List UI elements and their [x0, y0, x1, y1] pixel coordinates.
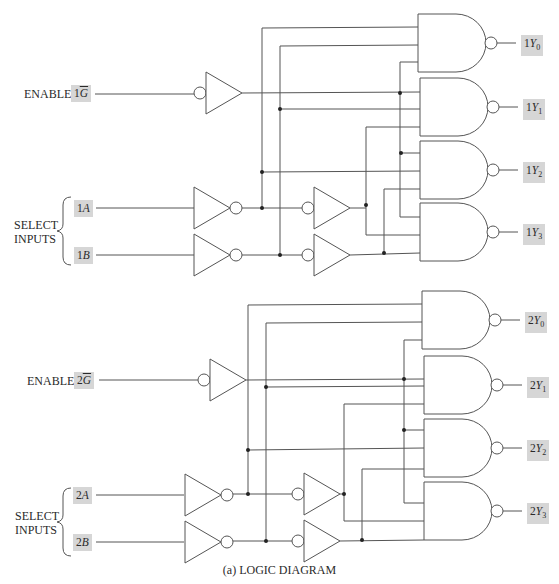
- output-1y3-pin: 1Y3: [523, 224, 545, 245]
- enable-2-inverter: [198, 359, 246, 401]
- input-2b-inverter: [185, 521, 233, 563]
- nand-1y0: [418, 14, 497, 72]
- output-1y0-pin: 1Y0: [521, 35, 543, 56]
- nand-1y2: [420, 141, 499, 199]
- select-inputs-2-label-line1: SELECT: [15, 509, 59, 524]
- input-1b-pin: 1B: [74, 247, 93, 264]
- output-2y2-pin: 2Y2: [527, 440, 549, 461]
- input-2a-pin: 2A: [73, 487, 92, 504]
- select-inputs-1-label-line1: SELECT: [14, 218, 58, 233]
- select-brace-1: [57, 197, 71, 265]
- nand-2y1: [424, 356, 503, 414]
- input-2a-buffer: [292, 473, 340, 515]
- input-1b-buffer: [302, 234, 350, 276]
- input-2b-pin: 2B: [73, 534, 92, 551]
- input-1b-inverter: [194, 234, 242, 276]
- enable-2-label: ENABLE: [27, 374, 74, 389]
- enable-1-label: ENABLE: [24, 87, 71, 102]
- enable-2-pin: 2G: [74, 372, 94, 389]
- input-1a-inverter: [194, 187, 242, 229]
- enable-1-inverter: [194, 72, 242, 114]
- nand-1y3: [420, 203, 499, 261]
- output-2y3-pin: 2Y3: [527, 503, 549, 524]
- select-inputs-1-label-line2: INPUTS: [14, 232, 56, 247]
- section-2-circuit: [96, 291, 522, 563]
- output-1y2-pin: 1Y2: [523, 162, 545, 183]
- output-2y1-pin: 2Y1: [527, 377, 549, 398]
- input-1a-buffer: [302, 187, 350, 229]
- input-2a-inverter: [185, 474, 233, 516]
- section-1-circuit: [95, 14, 518, 276]
- figure-caption: (a) LOGIC DIAGRAM: [0, 563, 559, 578]
- select-brace-2: [57, 488, 71, 556]
- enable-1-pin: 1G: [71, 85, 91, 102]
- nand-2y0: [422, 291, 501, 349]
- nand-2y3: [424, 482, 503, 540]
- output-1y1-pin: 1Y1: [523, 99, 545, 120]
- nand-1y1: [420, 78, 499, 136]
- nand-2y2: [424, 419, 503, 477]
- select-inputs-2-label-line2: INPUTS: [15, 523, 57, 538]
- input-2b-buffer: [292, 520, 340, 562]
- input-1a-pin: 1A: [74, 200, 93, 217]
- output-2y0-pin: 2Y0: [525, 312, 547, 333]
